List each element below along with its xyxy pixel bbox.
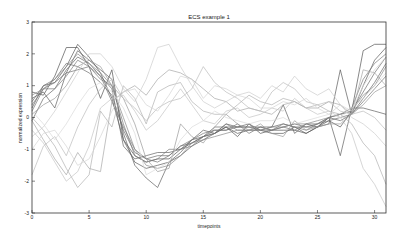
series-line [32, 67, 386, 175]
x-tick-label: 5 [88, 214, 91, 220]
y-tick-label: -1 [25, 146, 30, 152]
x-tick-label: 10 [143, 214, 149, 220]
series-line [32, 51, 386, 188]
line-chart: ECS example 1 051015202530 3210-1-2-3 ti… [0, 0, 405, 235]
x-tick-label: 15 [201, 214, 207, 220]
y-tick-label: -3 [25, 210, 30, 216]
series-line [32, 67, 386, 163]
y-axis-label: normalized expression [17, 93, 23, 143]
x-tick-label: 0 [31, 214, 34, 220]
x-tick-label: 30 [372, 214, 378, 220]
chart-title: ECS example 1 [188, 14, 230, 20]
y-axis-ticks: 3210-1-2-3 [25, 19, 35, 216]
series-line [32, 54, 386, 162]
y-tick-label: 3 [26, 19, 29, 25]
x-axis-label: timepoints [198, 223, 221, 229]
series-line [32, 57, 386, 159]
y-tick-label: 0 [26, 114, 29, 120]
series-line [32, 57, 386, 159]
x-tick-label: 25 [315, 214, 321, 220]
series-line [32, 44, 386, 168]
y-tick-label: 1 [26, 82, 29, 88]
y-tick-label: 2 [26, 51, 29, 57]
y-tick-label: -2 [25, 178, 30, 184]
plot-frame [32, 22, 386, 213]
plot-lines [32, 44, 386, 206]
series-line [32, 44, 386, 162]
x-axis-ticks: 051015202530 [31, 210, 378, 220]
x-tick-label: 20 [258, 214, 264, 220]
series-line [32, 57, 386, 165]
